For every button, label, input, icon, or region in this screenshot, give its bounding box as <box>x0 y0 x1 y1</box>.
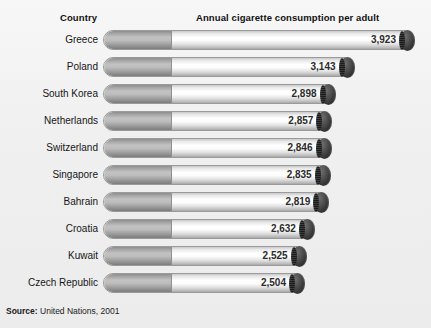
country-label: Bahrain <box>0 191 98 218</box>
cigarette-filter <box>104 139 172 157</box>
column-header-country: Country <box>60 12 97 23</box>
chart-row: Czech Republic2,504 <box>0 272 431 299</box>
cigarette-bar: 2,835 <box>103 165 331 185</box>
cigarette-tip-icon <box>317 111 332 132</box>
chart-row: Netherlands2,857 <box>0 110 431 137</box>
cigarette-body <box>103 246 307 266</box>
cigarette-filter <box>104 58 172 76</box>
cigarette-body <box>103 192 329 212</box>
cigarette-bar: 2,846 <box>103 138 332 158</box>
chart-row: South Korea2,898 <box>0 83 431 110</box>
chart-rows: Greece3,923Poland3,143South Korea2,898Ne… <box>0 29 431 299</box>
chart-row: Greece3,923 <box>0 29 431 56</box>
source-prefix: Source: <box>6 306 38 316</box>
cigarette-bar: 2,819 <box>103 192 329 212</box>
cigarette-filter <box>104 166 172 184</box>
country-label: Poland <box>0 56 98 83</box>
chart-row: Switzerland2,846 <box>0 137 431 164</box>
cigarette-bar: 2,632 <box>103 219 315 239</box>
cigarette-filter <box>104 247 172 265</box>
cigarette-body <box>103 84 336 104</box>
column-header-metric: Annual cigarette consumption per adult <box>196 12 379 23</box>
cigarette-tip-icon <box>321 84 336 105</box>
cigarette-filter <box>104 220 172 238</box>
country-label: Czech Republic <box>0 272 98 299</box>
cigarette-bar: 2,898 <box>103 84 336 104</box>
country-label: Switzerland <box>0 137 98 164</box>
cigarette-tip-icon <box>290 273 305 294</box>
cigarette-tip-icon <box>316 165 331 186</box>
cigarette-filter <box>104 112 172 130</box>
chart-row: Bahrain2,819 <box>0 191 431 218</box>
country-label: Kuwait <box>0 245 98 272</box>
cigarette-tip-icon <box>314 192 329 213</box>
cigarette-body <box>103 138 332 158</box>
country-label: Greece <box>0 29 98 56</box>
cigarette-tip-icon <box>340 57 355 78</box>
cigarette-body <box>103 57 355 77</box>
cigarette-tip-icon <box>300 219 315 240</box>
cigarette-bar: 3,923 <box>103 30 415 50</box>
country-label: Singapore <box>0 164 98 191</box>
chart-row: Poland3,143 <box>0 56 431 83</box>
cigarette-bar: 2,857 <box>103 111 332 131</box>
country-label: Croatia <box>0 218 98 245</box>
country-label: Netherlands <box>0 110 98 137</box>
cigarette-body <box>103 30 415 50</box>
cigarette-filter <box>104 85 172 103</box>
cigarette-bar: 3,143 <box>103 57 355 77</box>
chart-row: Kuwait2,525 <box>0 245 431 272</box>
cigarette-bar: 2,525 <box>103 246 307 266</box>
source-text: United Nations, 2001 <box>40 306 119 316</box>
cigarette-tip-icon <box>292 246 307 267</box>
cigarette-body <box>103 273 305 293</box>
country-label: South Korea <box>0 83 98 110</box>
cigarette-consumption-chart: Country Annual cigarette consumption per… <box>0 0 431 328</box>
cigarette-tip-icon <box>317 138 332 159</box>
cigarette-filter <box>104 31 172 49</box>
cigarette-tip-icon <box>400 30 415 51</box>
cigarette-body <box>103 165 331 185</box>
source-note: Source: United Nations, 2001 <box>6 306 119 316</box>
chart-row: Singapore2,835 <box>0 164 431 191</box>
cigarette-bar: 2,504 <box>103 273 305 293</box>
cigarette-filter <box>104 274 172 292</box>
cigarette-body <box>103 219 315 239</box>
cigarette-filter <box>104 193 172 211</box>
chart-row: Croatia2,632 <box>0 218 431 245</box>
cigarette-body <box>103 111 332 131</box>
